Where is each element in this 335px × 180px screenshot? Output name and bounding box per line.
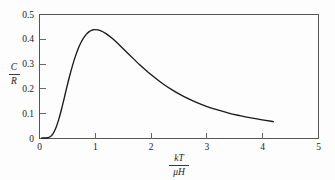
x-axis-label-numerator: kT (174, 153, 184, 163)
y-axis-label: C R (9, 62, 20, 86)
y-axis-label-denominator: R (10, 76, 17, 86)
y-tick-label-0.1: 0.1 (22, 109, 34, 119)
x-tick-label-3: 3 (205, 142, 210, 152)
data-curve-schottky (42, 30, 274, 138)
frame-border (40, 15, 319, 139)
plot-canvas: 0.5 0.4 0.3 0.2 0.1 0 0 1 2 3 4 5 C R kT… (0, 0, 335, 180)
x-tick-label-1: 1 (93, 142, 98, 152)
y-tick-label-0.3: 0.3 (22, 59, 34, 69)
x-axis-tick-labels: 0 1 2 3 4 5 (37, 142, 321, 152)
plot-frame (40, 15, 319, 139)
x-tick-label-2: 2 (149, 142, 154, 152)
x-tick-label-0: 0 (37, 142, 42, 152)
x-axis-label-denominator: μH (172, 167, 186, 177)
y-axis-tick-labels: 0.5 0.4 0.3 0.2 0.1 0 (22, 10, 34, 144)
y-tick-label-0.2: 0.2 (22, 84, 34, 94)
x-axis-label: kT μH (169, 153, 189, 177)
y-axis-label-numerator: C (11, 62, 18, 72)
y-axis-ticks (40, 39, 46, 113)
y-tick-label-0.4: 0.4 (22, 34, 34, 44)
x-tick-label-4: 4 (260, 142, 265, 152)
chart-figure: 0.5 0.4 0.3 0.2 0.1 0 0 1 2 3 4 5 C R kT… (0, 0, 335, 180)
y-tick-label-0.5: 0.5 (22, 10, 34, 20)
y-tick-label-0: 0 (29, 134, 34, 144)
x-tick-label-5: 5 (316, 142, 321, 152)
x-axis-ticks (95, 133, 262, 139)
